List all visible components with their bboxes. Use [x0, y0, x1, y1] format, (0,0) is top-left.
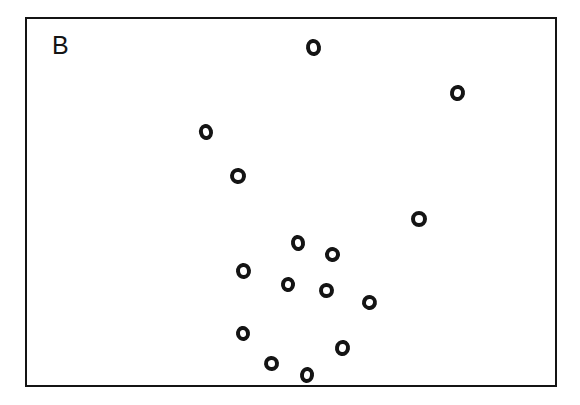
plot-frame [25, 17, 557, 387]
scatter-point [263, 355, 279, 371]
figure-panel-b: B [0, 0, 580, 405]
scatter-point [411, 211, 427, 227]
scatter-point [318, 282, 334, 298]
panel-label: B [52, 33, 69, 58]
